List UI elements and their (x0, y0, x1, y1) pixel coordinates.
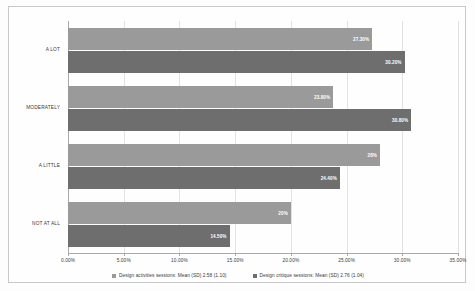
bar: 14.50% (68, 225, 230, 247)
y-axis-tick-label: NOT AT ALL (32, 221, 60, 226)
x-axis-tick (402, 253, 403, 256)
x-axis-tick (124, 253, 125, 256)
legend-item[interactable]: Design critique sessions: Mean (SD) 2.76… (253, 273, 364, 278)
y-axis-tick-label: A LOT (46, 47, 60, 52)
x-axis-tick-label: 5.00% (117, 258, 131, 263)
bar-value-label: 30.80% (392, 117, 408, 122)
y-axis-tick-label: MODERATELY (26, 105, 60, 110)
bar: 27.30% (68, 28, 372, 50)
bar-value-label: 30.20% (385, 59, 401, 64)
bar-value-label: 23.80% (314, 94, 330, 99)
bar: 28% (68, 144, 380, 166)
x-axis-tick (291, 253, 292, 256)
x-axis-tick (235, 253, 236, 256)
plot-area: 27.30%30.20%23.80%30.80%28%24.40%20%14.5… (68, 21, 458, 253)
bar: 20% (68, 202, 291, 224)
x-axis-tick-label: 25.00% (338, 258, 355, 263)
legend-label: Design critique sessions: Mean (SD) 2.76… (260, 273, 364, 278)
x-axis-tick-label: 35.00% (450, 258, 467, 263)
x-axis-tick-label: 10.00% (171, 258, 188, 263)
x-axis: 0.00%5.00%10.00%15.00%20.00%25.00%30.00%… (68, 253, 458, 271)
x-axis-tick-label: 20.00% (282, 258, 299, 263)
x-axis-line (68, 253, 458, 254)
y-axis-tick-label: A LITTLE (39, 163, 60, 168)
x-axis-tick-label: 15.00% (227, 258, 244, 263)
x-axis-tick-label: 30.00% (394, 258, 411, 263)
bar-value-label: 28% (368, 152, 378, 157)
legend-label: Design activities sessions: Mean (SD) 2.… (119, 273, 227, 278)
x-axis-tick (458, 253, 459, 256)
gridline (458, 21, 459, 253)
bars-layer: 27.30%30.20%23.80%30.80%28%24.40%20%14.5… (68, 21, 458, 253)
chart-legend: Design activities sessions: Mean (SD) 2.… (9, 273, 467, 278)
x-axis-tick (347, 253, 348, 256)
bar-value-label: 27.30% (353, 36, 369, 41)
bar-value-label: 24.40% (321, 175, 337, 180)
chart-container: A LOTMODERATELYA LITTLENOT AT ALL 27.30%… (0, 0, 475, 291)
bar: 24.40% (68, 167, 340, 189)
y-axis-category-labels: A LOTMODERATELYA LITTLENOT AT ALL (9, 21, 64, 253)
bar-value-label: 14.50% (210, 233, 226, 238)
x-axis-tick (179, 253, 180, 256)
legend-swatch-icon (253, 274, 257, 278)
legend-item[interactable]: Design activities sessions: Mean (SD) 2.… (112, 273, 227, 278)
x-axis-tick-label: 0.00% (61, 258, 75, 263)
legend-swatch-icon (112, 274, 116, 278)
bar: 30.80% (68, 109, 411, 131)
bar: 30.20% (68, 51, 405, 73)
chart-frame: A LOTMODERATELYA LITTLENOT AT ALL 27.30%… (8, 6, 466, 283)
x-axis-tick (68, 253, 69, 256)
bar: 23.80% (68, 86, 333, 108)
bar-value-label: 20% (278, 210, 288, 215)
